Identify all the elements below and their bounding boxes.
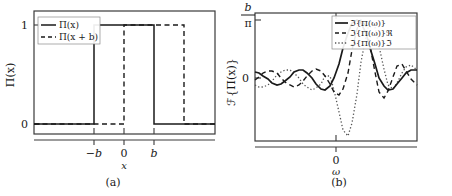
panel-b-plot: b π 0 ℱ{Π(x)} 0 ω — [226, 0, 452, 196]
panel-a-xaxis-label: x — [121, 160, 127, 171]
panel-a-ytick-label-1: 1 — [21, 19, 28, 32]
panel-b-ytick-bpi-denominator: π — [244, 17, 251, 30]
panel-b-legend: ℑ{Π(ω)} ℑ{Π(ω)}ℜ ℑ{Π(ω)}ℑ — [332, 16, 416, 49]
panel-a-legend: Π(x) Π(x + b) — [38, 17, 100, 44]
panel-a-legend-label-1: Π(x + b) — [59, 32, 98, 42]
panel-b-legend-label-0: ℑ{Π(ω)} — [350, 19, 386, 28]
panel-a-legend-label-0: Π(x) — [59, 20, 79, 30]
figure-container: 1 0 −b 0 b x Π(x) — [0, 0, 452, 196]
panel-a-ytick-label-0: 0 — [21, 118, 28, 131]
panel-b-ytick-marks — [255, 20, 261, 78]
panel-a-yaxis-label: Π(x) — [4, 63, 17, 87]
panel-b-ytick-bpi-numerator: b — [244, 1, 251, 14]
panel-a-xtick-label-minus-b: −b — [86, 147, 102, 160]
panel-a-plot: 1 0 −b 0 b x Π(x) — [0, 0, 226, 196]
panel-b-legend-label-1: ℑ{Π(ω)}ℜ — [350, 29, 393, 38]
panel-a-caption: (a) — [0, 176, 226, 189]
panel-b-legend-label-2: ℑ{Π(ω)}ℑ — [350, 39, 392, 48]
panel-b-caption: (b) — [226, 176, 452, 189]
panel-b-ytick-label-zero: 0 — [242, 72, 249, 85]
panel-b-yaxis-label: ℱ{Π(x)} — [226, 58, 238, 105]
panel-a-xtick-marks — [34, 128, 215, 145]
panel-a: 1 0 −b 0 b x Π(x) — [0, 0, 226, 196]
panel-b-ytick-label-bpi: b π — [241, 1, 255, 30]
panel-b: b π 0 ℱ{Π(x)} 0 ω — [226, 0, 452, 196]
panel-a-xtick-label-zero: 0 — [121, 147, 128, 160]
panel-a-xtick-label-b: b — [150, 147, 157, 160]
